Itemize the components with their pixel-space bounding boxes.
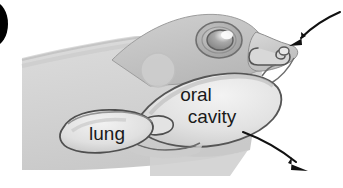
tympanum-icon: [141, 53, 175, 87]
frog-respiration-diagram: oral cavity lung: [0, 0, 343, 188]
oral-cavity-label-line2: cavity: [188, 106, 237, 127]
diagram-canvas: oral cavity lung: [0, 0, 343, 188]
external-naris-icon: [279, 47, 289, 55]
eye-highlight-icon: [221, 31, 233, 39]
oral-cavity-label-line1: oral: [180, 84, 212, 105]
lung-label: lung: [89, 123, 125, 144]
